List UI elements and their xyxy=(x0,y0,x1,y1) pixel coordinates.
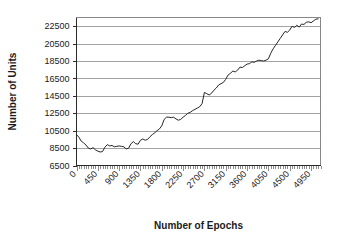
line-chart: 6500850010500125001450016500185002050022… xyxy=(0,0,339,242)
chart-background xyxy=(0,0,339,242)
y-tick-label: 10500 xyxy=(44,126,69,136)
y-tick-label: 12500 xyxy=(44,108,69,118)
x-axis-title: Number of Epochs xyxy=(154,220,243,231)
y-axis-title: Number of Units xyxy=(7,52,18,130)
y-tick-label: 8500 xyxy=(49,143,69,153)
y-tick-label: 14500 xyxy=(44,91,69,101)
y-tick-label: 18500 xyxy=(44,56,69,66)
chart-container: 6500850010500125001450016500185002050022… xyxy=(0,0,339,242)
y-tick-label: 20500 xyxy=(44,39,69,49)
y-tick-label: 6500 xyxy=(49,161,69,171)
y-tick-label: 16500 xyxy=(44,74,69,84)
y-tick-label: 22500 xyxy=(44,21,69,31)
